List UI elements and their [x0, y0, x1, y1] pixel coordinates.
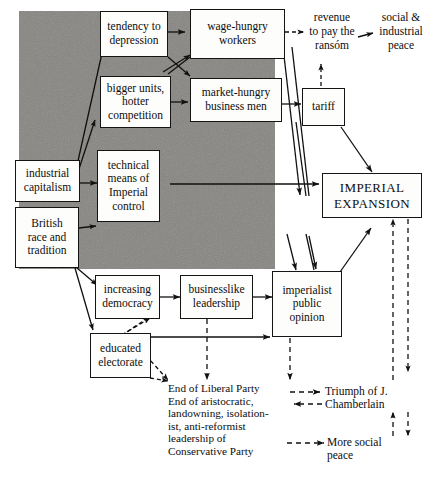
node-label: British race and tradition	[28, 217, 67, 258]
label-triumph-of-j-chamberlain: Triumph of J. Chamberlain	[325, 385, 435, 411]
node-label: IMPERIAL EXPANSION	[334, 180, 410, 211]
node-industrial-capitalism[interactable]: industrial capitalism	[15, 160, 80, 202]
node-businesslike-leadership[interactable]: businesslike leadership	[180, 275, 253, 319]
node-label: increasing democracy	[102, 283, 152, 310]
node-increasing-democracy[interactable]: increasing democracy	[95, 275, 160, 319]
label-end-of-liberal-party: End of Liberal Party End of aristocratic…	[168, 382, 298, 457]
node-educated-electorate[interactable]: educated electorate	[90, 333, 151, 378]
node-label: tendency to depression	[107, 20, 160, 47]
node-british-race-and-tradition[interactable]: British race and tradition	[15, 207, 79, 268]
node-tariff[interactable]: tariff	[302, 88, 345, 126]
node-market-hungry-business-men[interactable]: market-hungry business men	[190, 78, 282, 122]
label-revenue-to-pay-the-ransom: revenue to pay the ransóm	[303, 11, 361, 52]
node-imperial-expansion[interactable]: IMPERIAL EXPANSION	[322, 173, 422, 218]
node-label: businesslike leadership	[188, 283, 244, 310]
node-label: market-hungry business men	[202, 86, 270, 113]
node-label: industrial capitalism	[24, 167, 71, 194]
node-bigger-units-hotter-competition[interactable]: bigger units, hotter competition	[100, 76, 171, 128]
node-wage-hungry-workers[interactable]: wage-hungry workers	[190, 9, 285, 59]
node-imperialist-public-opinion[interactable]: imperialist public opinion	[272, 271, 342, 337]
label-more-social-peace: More social peace	[327, 436, 427, 462]
node-label: bigger units, hotter competition	[107, 82, 165, 123]
node-label: wage-hungry workers	[207, 20, 268, 47]
node-label: tariff	[312, 100, 335, 114]
label-social-and-industrial-peace: social & industrial peace	[370, 11, 432, 52]
node-label: technical means of Imperial control	[108, 159, 150, 213]
diagram-canvas: tendency to depression wage-hungry worke…	[0, 0, 436, 479]
node-tendency-to-depression[interactable]: tendency to depression	[100, 11, 168, 57]
node-technical-means-of-imperial-control[interactable]: technical means of Imperial control	[97, 150, 160, 222]
node-label: educated electorate	[98, 342, 143, 369]
node-label: imperialist public opinion	[282, 284, 331, 325]
